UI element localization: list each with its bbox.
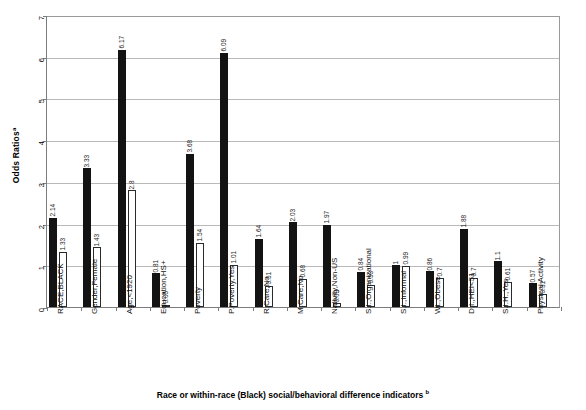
bar-value-label: 6.09 xyxy=(221,39,228,52)
bar-value-label: 0.57 xyxy=(529,270,536,283)
plot-area: 01234567 2.141.333.331.436.172.80.810.05… xyxy=(46,16,560,308)
x-tick-mark xyxy=(116,307,117,311)
x-tick-mark xyxy=(253,307,254,311)
y-tick-label: 6 xyxy=(38,58,46,62)
bar-value-label: 1.88 xyxy=(461,215,468,228)
y-tick-label: 5 xyxy=(38,99,46,103)
bar-value-label: 6.17 xyxy=(118,36,125,49)
y-axis-title: Odds Ratiosa xyxy=(11,95,22,215)
x-category-label: S.I.,Organizational xyxy=(365,248,373,314)
x-tick-mark xyxy=(561,307,562,311)
x-tick-mark xyxy=(458,307,459,311)
bar-value-label: 2.8 xyxy=(128,180,135,189)
x-tick-mark xyxy=(287,307,288,311)
x-category-label: Nativity,Non-US xyxy=(331,258,339,314)
x-tick-mark xyxy=(81,307,82,311)
bar-value-label: 1.33 xyxy=(60,238,67,251)
bar-group: 1.880.7 xyxy=(458,16,492,307)
bar-group: 10.99 xyxy=(390,16,424,307)
bar-value-label: 1.64 xyxy=(255,225,262,238)
y-tick-label: 7 xyxy=(38,16,46,20)
x-category-label: RACE,BLACK xyxy=(57,263,65,314)
x-tick-mark xyxy=(150,307,151,311)
x-category-label: S.I.H.,Yes xyxy=(502,279,510,314)
y-tick-label: 2 xyxy=(38,225,46,229)
bar-value-label: 2.03 xyxy=(290,209,297,222)
bar-value-label: 2.14 xyxy=(50,204,57,217)
x-axis-title: Race or within-race (Black) social/behav… xyxy=(0,389,586,400)
bar-value-label: 1.1 xyxy=(495,251,502,260)
x-category-label: Physical Activity xyxy=(537,257,545,314)
bar-group: 6.172.8 xyxy=(116,16,150,307)
x-tick-mark xyxy=(355,307,356,311)
x-category-label: Poverty xyxy=(194,287,202,314)
y-axis-title-superscript: a xyxy=(11,128,17,132)
bar-value-label: 3.33 xyxy=(84,154,91,167)
bar-value-label: 0.99 xyxy=(402,252,409,265)
bar-group: 1.640.51 xyxy=(253,16,287,307)
bar-group: 3.681.54 xyxy=(184,16,218,307)
bar-value-label: 0.86 xyxy=(427,257,434,270)
bar-group: 1.10.61 xyxy=(492,16,526,307)
x-axis-title-superscript: b xyxy=(426,389,430,395)
bar-value-label: 1.43 xyxy=(94,234,101,247)
x-category-label: R.Care,No xyxy=(263,276,271,314)
x-category-label: Gender,Female xyxy=(91,259,99,314)
x-tick-mark xyxy=(218,307,219,311)
x-tick-mark xyxy=(424,307,425,311)
y-axis-title-text: Odds Ratios xyxy=(11,131,21,183)
x-tick-mark xyxy=(527,307,528,311)
x-category-label: M.Care,No xyxy=(297,275,305,314)
y-tick-label: 1 xyxy=(38,266,46,270)
bar-group: 6.091.01 xyxy=(218,16,252,307)
bar-group: 0.860.7 xyxy=(424,16,458,307)
x-tick-mark xyxy=(390,307,391,311)
x-category-label: Age,<1920 xyxy=(126,275,134,314)
y-tick-label: 4 xyxy=(38,141,46,145)
bar-value-label: 1.01 xyxy=(231,251,238,264)
bar-dark: 3.68 xyxy=(186,154,194,308)
bar-value-label: 1 xyxy=(392,261,399,265)
x-category-label: S.I.,Informal xyxy=(400,271,408,314)
x-axis-title-text: Race or within-race (Black) social/behav… xyxy=(157,390,423,400)
bars-layer: 2.141.333.331.436.172.80.810.053.681.546… xyxy=(47,16,559,307)
odds-ratio-bar-chart: Odds Ratiosa 01234567 2.141.333.331.436.… xyxy=(0,0,586,410)
x-tick-mark xyxy=(321,307,322,311)
x-tick-mark xyxy=(47,307,48,311)
x-category-label: P.Poverty,Yes xyxy=(228,266,236,314)
bar-dark: 6.17 xyxy=(118,50,126,307)
x-category-label: Education,HS+ xyxy=(160,260,168,314)
bar-value-label: 1.97 xyxy=(324,211,331,224)
y-tick-label: 3 xyxy=(38,183,46,187)
x-category-label: D.I.,HEI<51 xyxy=(468,272,476,314)
bar-value-label: 1.54 xyxy=(197,229,204,242)
y-tick-label: 0 xyxy=(38,308,46,312)
x-category-label: Wt.,Obese xyxy=(434,276,442,314)
x-tick-mark xyxy=(184,307,185,311)
bar-group: 2.030.68 xyxy=(287,16,321,307)
bar-value-label: 3.68 xyxy=(187,140,194,153)
x-tick-mark xyxy=(492,307,493,311)
